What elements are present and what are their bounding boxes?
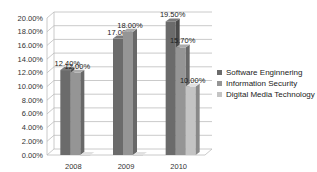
y-tick-label: 16.00% xyxy=(18,41,44,50)
legend-item: Software Enginnering xyxy=(217,68,303,77)
bar xyxy=(123,29,137,155)
y-tick-label: 18.00% xyxy=(18,27,44,36)
x-tick-label: 2009 xyxy=(118,162,135,171)
y-tick-label: 0.00% xyxy=(22,151,44,160)
data-label: 12.00% xyxy=(65,62,91,71)
data-label: 10.00% xyxy=(180,76,206,85)
y-tick-label: 20.00% xyxy=(18,14,44,23)
legend-label: Digital Media Technology xyxy=(226,90,315,99)
bar xyxy=(70,70,84,155)
legend-swatch xyxy=(217,92,222,97)
legend: Software EnginneringInformation Security… xyxy=(217,68,315,99)
legend-label: Information Security xyxy=(226,79,297,88)
x-tick-label: 2010 xyxy=(170,162,187,171)
x-tick-label: 2008 xyxy=(65,162,82,171)
y-axis: 0.00%2.00%4.00%6.00%8.00%10.00%12.00%14.… xyxy=(18,14,44,160)
legend-swatch xyxy=(217,81,222,86)
y-tick-label: 6.00% xyxy=(22,109,44,118)
legend-swatch xyxy=(217,70,222,75)
y-tick-label: 2.00% xyxy=(22,137,44,146)
legend-item: Information Security xyxy=(217,79,297,88)
y-tick-label: 8.00% xyxy=(22,96,44,105)
bar xyxy=(186,84,200,156)
bar-chart: 0.00%2.00%4.00%6.00%8.00%10.00%12.00%14.… xyxy=(0,0,317,172)
legend-item: Digital Media Technology xyxy=(217,90,315,99)
x-axis: 200820092010 xyxy=(65,162,187,171)
data-label: 15.70% xyxy=(170,36,196,45)
bars: 12.40%12.00%17.00%18.00%19.50%15.70%10.0… xyxy=(55,10,206,155)
data-label: 18.00% xyxy=(117,21,143,30)
y-tick-label: 12.00% xyxy=(18,68,44,77)
y-tick-label: 14.00% xyxy=(18,55,44,64)
y-tick-label: 4.00% xyxy=(22,123,44,132)
y-tick-label: 10.00% xyxy=(18,82,44,91)
legend-label: Software Enginnering xyxy=(226,68,303,77)
data-label: 19.50% xyxy=(160,10,186,19)
